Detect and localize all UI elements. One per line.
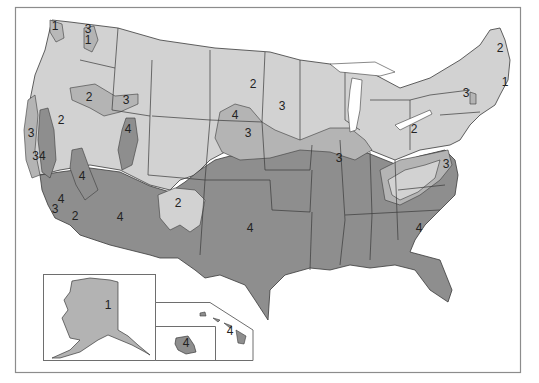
zone-label-nevada-2: 2	[58, 113, 65, 127]
zone-label-socal-2: 2	[72, 209, 79, 223]
zone-label-virginia-3: 3	[443, 157, 450, 171]
zone-label-utah-4: 4	[125, 122, 132, 136]
zone-label-new-england-coast: 1	[502, 75, 509, 89]
zone-label-alaska-1: 1	[105, 298, 112, 312]
zone-label-hawaii-4: 4	[183, 336, 190, 350]
zone-label-idaho-3: 3	[123, 93, 130, 107]
zone-label-new-mexico-2: 2	[175, 196, 182, 210]
zone-map: 1312212343324323343343422444144	[0, 0, 539, 383]
zone-label-ca-coast-34: 34	[32, 149, 46, 163]
zone-label-nebraska-3: 3	[245, 126, 252, 140]
zone-label-ca-inland-4: 4	[79, 169, 86, 183]
zone-label-sd-4: 4	[232, 108, 239, 122]
zone-label-wa-coast: 1	[52, 19, 59, 33]
zone-3-nj-ny	[470, 92, 476, 104]
zone-label-ca-coast-3: 3	[28, 126, 35, 140]
zone-label-minnesota-3: 3	[279, 99, 286, 113]
zone-label-oregon-idaho-2: 2	[86, 90, 93, 104]
zone-label-northern-plains: 2	[250, 77, 257, 91]
zone-label-maine: 2	[497, 41, 504, 55]
zone-label-ohio-2: 2	[411, 122, 418, 136]
zone-label-georgia-4: 4	[416, 221, 423, 235]
zone-label-socal-4: 4	[58, 192, 65, 206]
zone-label-illinois-3: 3	[336, 151, 343, 165]
zone-label-wa-cascade-1: 1	[85, 33, 92, 47]
zone-label-arizona-4: 4	[117, 210, 124, 224]
zone-label-oklahoma-4: 4	[247, 221, 254, 235]
zone-label-new-york-3: 3	[463, 86, 470, 100]
zone-label-hawaii-islands-4: 4	[227, 324, 234, 338]
